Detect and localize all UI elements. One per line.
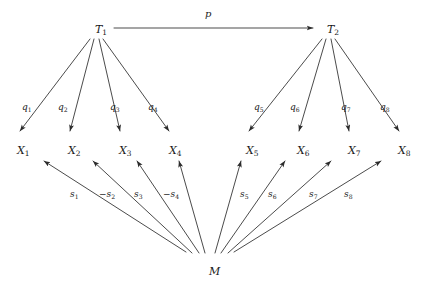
node-X4: X4 bbox=[169, 145, 182, 158]
edge-q1-t1-x1 bbox=[20, 39, 90, 131]
edge-q7-t2-x7 bbox=[331, 39, 349, 131]
diagram-edges-layer bbox=[0, 0, 425, 288]
edge-label-q2: q2 bbox=[58, 103, 68, 113]
edge-q3-t1-x3 bbox=[99, 39, 120, 131]
edge-label-q6: q6 bbox=[290, 103, 300, 113]
node-T2: T2 bbox=[327, 24, 339, 37]
edge-label-s8: s8 bbox=[344, 190, 353, 200]
edge-label-p: p bbox=[205, 9, 211, 19]
edge-label-s7: s7 bbox=[309, 190, 318, 200]
edge-q2-t1-x2 bbox=[70, 39, 94, 131]
node-X1: X1 bbox=[17, 145, 30, 158]
edge-label-q5: q5 bbox=[254, 103, 264, 113]
edge-q4-t1-x4 bbox=[103, 39, 169, 131]
edge-s7-m-x7 bbox=[228, 161, 331, 253]
edge-label-s3: s3 bbox=[134, 190, 143, 200]
edge-label-q4: q4 bbox=[148, 103, 158, 113]
edge-s4-m-x4 bbox=[179, 161, 205, 253]
node-M: M bbox=[209, 266, 220, 277]
edge-label-q8: q8 bbox=[380, 103, 390, 113]
edge-label-s6: s6 bbox=[268, 190, 277, 200]
edge-label-s2: −s2 bbox=[99, 190, 115, 200]
node-X7: X7 bbox=[348, 145, 361, 158]
edge-label-q7: q7 bbox=[341, 103, 351, 113]
path-diagram-canvas: T1 T2 M X1 X2 X3 X4 X5 X6 X7 X8 p q1 q2 … bbox=[0, 0, 425, 288]
edge-s1-m-x1 bbox=[44, 161, 186, 252]
edge-q8-t2-x8 bbox=[335, 39, 399, 131]
edge-q6-t2-x6 bbox=[299, 39, 326, 131]
edge-q5-t2-x5 bbox=[249, 39, 322, 131]
node-X2: X2 bbox=[68, 145, 81, 158]
edge-s6-m-x6 bbox=[221, 161, 285, 253]
edge-label-s4: −s4 bbox=[163, 190, 179, 200]
edge-label-q1: q1 bbox=[22, 103, 32, 113]
edge-s8-m-x8 bbox=[234, 161, 381, 252]
edge-label-s5: s5 bbox=[240, 190, 249, 200]
edge-label-q3: q3 bbox=[110, 103, 120, 113]
node-X3: X3 bbox=[119, 145, 132, 158]
edge-s2-m-x2 bbox=[93, 161, 192, 253]
edge-s3-m-x3 bbox=[137, 161, 199, 253]
node-X6: X6 bbox=[297, 145, 310, 158]
node-X5: X5 bbox=[246, 145, 259, 158]
edge-s5-m-x5 bbox=[215, 161, 241, 253]
node-T1: T1 bbox=[95, 24, 107, 37]
edge-label-s1: s1 bbox=[70, 190, 79, 200]
node-X8: X8 bbox=[398, 145, 411, 158]
